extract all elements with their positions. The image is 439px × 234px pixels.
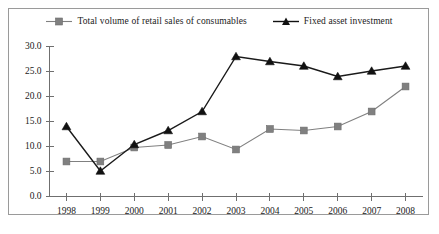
data-point-marker <box>300 127 307 134</box>
y-tick-label: 5.0 <box>30 166 42 176</box>
x-tick-label: 2002 <box>193 206 212 216</box>
data-point-marker <box>402 83 409 90</box>
data-point-marker <box>334 123 341 130</box>
data-point-marker <box>267 126 274 133</box>
y-tick-label: 15.0 <box>25 116 42 126</box>
y-tick-label: 0.0 <box>30 191 42 201</box>
x-tick-label: 2001 <box>159 206 178 216</box>
y-axis-labels: 30.025.020.015.010.05.00.0 <box>25 41 42 201</box>
x-tick-label: 2005 <box>294 206 313 216</box>
x-tick-label: 1999 <box>91 206 110 216</box>
data-point-marker <box>164 126 173 133</box>
x-tick-label: 2004 <box>260 206 279 216</box>
data-point-marker <box>63 158 70 165</box>
data-point-marker <box>232 52 241 59</box>
data-point-marker <box>233 146 240 153</box>
x-axis-labels: 1998199920002001200220032004200520062007… <box>57 206 415 216</box>
x-tick-label: 1998 <box>57 206 76 216</box>
data-point-marker <box>368 108 375 115</box>
x-tick-label: 2007 <box>362 206 381 216</box>
x-tick-label: 2006 <box>328 206 347 216</box>
x-tick-label: 2008 <box>396 206 415 216</box>
y-tick-label: 20.0 <box>25 91 42 101</box>
plot-area: 30.025.020.015.010.05.00.0 1998199920002… <box>9 9 430 216</box>
x-tick-label: 2003 <box>227 206 246 216</box>
y-tick-label: 10.0 <box>25 141 42 151</box>
data-point-marker <box>165 142 172 149</box>
data-point-marker <box>62 122 71 129</box>
y-tick-label: 25.0 <box>25 66 42 76</box>
y-tick-label: 30.0 <box>25 41 42 51</box>
x-tick-label: 2000 <box>125 206 144 216</box>
data-point-marker <box>401 62 410 69</box>
chart-figure: Total volume of retail sales of consumab… <box>0 0 439 234</box>
chart-frame: Total volume of retail sales of consumab… <box>8 8 429 215</box>
series-lines <box>66 57 405 172</box>
data-point-marker <box>97 158 104 165</box>
series-line-fixed-asset <box>66 57 405 172</box>
data-point-marker <box>199 133 206 140</box>
data-point-marker <box>198 107 207 114</box>
